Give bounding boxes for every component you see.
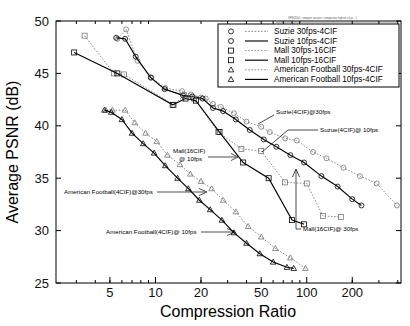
annotation-suzie-30fps-label: Suzie(4CIF)@30fps (276, 108, 330, 115)
data-point-square (82, 33, 87, 38)
chart-canvas: SPIE2004 : compare session r comparison … (0, 0, 410, 326)
figure-root: SPIE2004 : compare session r comparison … (0, 0, 410, 326)
annotation-af-30fps-label: American Football(4CIF)@30fps (64, 188, 153, 195)
data-point-circle (267, 130, 272, 135)
data-point-circle (231, 111, 236, 116)
y-axis-title: Average PSNR (dB) (4, 81, 21, 224)
x-tick-label: 10 (148, 285, 162, 300)
y-tick-label: 25 (35, 276, 49, 291)
header-note: SPIE2004 : compare session r comparison … (288, 16, 357, 20)
leader-suzue-10fps (262, 130, 318, 152)
annotation-af-10fps-label: American Football(4CIF)@ 10fps (106, 228, 197, 235)
legend-label: Mall 30fps-16CIF (274, 46, 336, 55)
annotation-mall-10fps-line2: @ 10fps (179, 155, 202, 162)
data-point-triangle (220, 197, 226, 202)
annotation-mall-10fps: Mall(16CIF) @ 10fps (173, 147, 238, 162)
legend-label: Suzie 30fps-4CIF (274, 27, 337, 36)
x-tick-label: 200 (341, 285, 363, 300)
annotation-suzue-10fps-label: Suzue(4CIF)@ 10fps (320, 126, 378, 133)
data-point-circle (374, 181, 379, 186)
y-tick-label: 35 (35, 171, 49, 186)
header-note-group: SPIE2004 : compare session r comparison … (276, 16, 398, 23)
leader-suzie-30fps (258, 115, 274, 124)
legend-label: Mall 10fps-16CIF (274, 56, 336, 65)
data-point-square (72, 50, 77, 55)
x-axis-title: Compression Ratio (160, 303, 296, 320)
annotation-suzie-30fps: Suzie(4CIF)@30fps (258, 108, 330, 124)
annotation-af-10fps: American Football(4CIF)@ 10fps (106, 228, 235, 236)
x-tick-label: 50 (254, 285, 268, 300)
data-point-triangle (198, 178, 204, 183)
legend: Suzie 30fps-4CIFSuzie 10fps-4CIFMall 30f… (218, 24, 399, 87)
leader-mall-30fps (296, 170, 301, 229)
y-tick-label: 50 (35, 14, 49, 29)
annotation-mall-30fps-label: Mall(16CIF)@ 30fps (303, 225, 358, 232)
data-point-circle (359, 203, 364, 208)
annotation-mall-10fps-line1: Mall(16CIF) (173, 147, 205, 154)
legend-label: American Football 10fps-4CIF (274, 75, 383, 84)
x-tick-label: 100 (296, 285, 318, 300)
data-point-circle (244, 119, 249, 124)
legend-label: American Football 30fps-4CIF (274, 65, 383, 74)
x-tick-label: 20 (194, 285, 208, 300)
data-point-circle (310, 150, 315, 155)
legend-label: Suzie 10fps-4CIF (274, 37, 337, 46)
data-point-triangle (154, 139, 160, 144)
y-tick-label: 40 (35, 118, 49, 133)
x-tick-label: 5 (106, 285, 113, 300)
annotation-af-30fps: American Football(4CIF)@30fps (64, 188, 207, 196)
y-tick-label: 30 (35, 223, 49, 238)
y-tick-label: 45 (35, 66, 49, 81)
data-point-triangle (209, 186, 215, 191)
